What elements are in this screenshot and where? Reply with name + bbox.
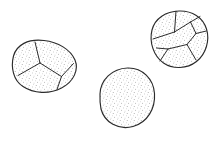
specimen-center-sphere[interactable] (100, 68, 155, 128)
specimen-left-ellipse[interactable] (12, 40, 76, 92)
specimen-right-ovoid[interactable] (151, 11, 208, 68)
figure-canvas: Line drawing of three stippled spore-lik… (0, 0, 213, 152)
spore-illustration-svg (0, 0, 213, 152)
specimen-center-sphere-outline (100, 68, 155, 128)
specimen-right-ovoid-outline (151, 11, 208, 68)
